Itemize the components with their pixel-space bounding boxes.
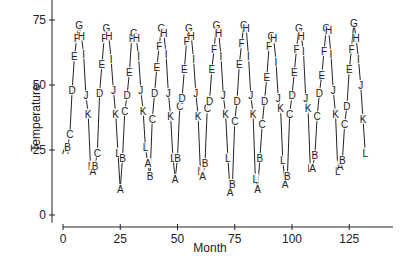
- x-tick-label: 25: [114, 232, 128, 246]
- data-point-symbol: J: [358, 80, 363, 91]
- data-point-symbol: A: [199, 171, 206, 182]
- y-tick-label: 0: [39, 208, 46, 222]
- data-point-symbol: B: [64, 142, 71, 153]
- data-point-symbol: B: [147, 171, 154, 182]
- data-point-symbol: D: [206, 96, 213, 107]
- data-point-symbol: E: [99, 59, 106, 70]
- data-point-symbol: D: [69, 85, 76, 96]
- data-point-symbol: C: [149, 114, 156, 125]
- data-point-symbol: F: [294, 44, 300, 55]
- data-point-symbol: I: [302, 46, 305, 57]
- data-point-symbol: K: [222, 109, 229, 120]
- data-point-symbol: D: [178, 93, 185, 104]
- data-point-symbol: C: [314, 111, 321, 122]
- data-point-symbol: C: [94, 148, 101, 159]
- data-point-symbol: C: [66, 129, 73, 140]
- data-point-symbol: A: [309, 163, 316, 174]
- x-tick-label: 100: [282, 232, 302, 246]
- data-point-symbol: H: [133, 33, 140, 44]
- data-point-symbol: B: [229, 179, 236, 190]
- x-tick-label: 50: [171, 232, 185, 246]
- data-point-symbol: J: [138, 85, 143, 96]
- data-point-symbol: F: [156, 41, 162, 52]
- data-point-symbol: E: [154, 62, 161, 73]
- data-point-symbol: I: [165, 49, 168, 60]
- data-point-symbol: F: [321, 46, 327, 57]
- data-point-symbol: B: [202, 158, 209, 169]
- data-point-symbol: D: [233, 96, 240, 107]
- data-point-symbol: K: [195, 111, 202, 122]
- data-point-symbol: A: [144, 158, 151, 169]
- data-point-symbol: D: [96, 88, 103, 99]
- data-point-symbol: J: [111, 85, 116, 96]
- data-point-symbol: L: [225, 153, 231, 164]
- data-point-symbol: C: [341, 119, 348, 130]
- data-point-symbol: B: [257, 153, 264, 164]
- data-point-symbol: I: [82, 49, 85, 60]
- data-point-symbol: I: [192, 54, 195, 65]
- data-point-symbol: L: [143, 142, 149, 153]
- data-point-symbol: E: [181, 64, 188, 75]
- data-point-symbol: D: [151, 88, 158, 99]
- data-point-symbol: H: [215, 28, 222, 39]
- x-tick-label: 125: [339, 232, 359, 246]
- data-point-symbol: D: [316, 88, 323, 99]
- data-point-symbol: K: [167, 111, 174, 122]
- data-point-symbol: E: [263, 72, 270, 83]
- data-point-symbol: E: [318, 70, 325, 81]
- data-point-symbol: B: [312, 150, 319, 161]
- data-point-symbol: H: [298, 31, 305, 42]
- data-point-symbol: H: [270, 33, 277, 44]
- data-point-symbol: J: [193, 88, 198, 99]
- y-axis-title: Temperature: [29, 84, 43, 152]
- temperature-line-chart: 0255075 0255075100125 ABCDEFGHIJKLABCDEF…: [0, 0, 405, 270]
- data-point-symbol: C: [121, 106, 128, 117]
- x-tick-label: 75: [228, 232, 242, 246]
- data-point-symbol: B: [339, 155, 346, 166]
- data-point-symbol: D: [124, 90, 131, 101]
- data-point-symbol: A: [254, 184, 261, 195]
- data-point-symbol: C: [259, 119, 266, 130]
- data-point-symbol: I: [110, 54, 113, 65]
- data-point-symbol: I: [330, 49, 333, 60]
- data-point-symbol: D: [288, 90, 295, 101]
- y-tick-label: 75: [33, 13, 47, 27]
- x-axis-title: Month: [193, 241, 226, 255]
- data-point-symbol: K: [360, 114, 367, 125]
- data-point-symbol: J: [221, 90, 226, 101]
- data-point-symbol: D: [343, 101, 350, 112]
- data-point-symbol: D: [261, 96, 268, 107]
- data-point-symbol: L: [253, 174, 259, 185]
- data-point-symbol: H: [353, 33, 360, 44]
- data-point-symbol: G: [75, 20, 83, 31]
- data-point-symbol: H: [188, 31, 195, 42]
- data-point-symbol: L: [280, 155, 286, 166]
- data-point-symbol: I: [357, 54, 360, 65]
- data-point-symbol: E: [291, 67, 298, 78]
- data-point-symbol: K: [85, 109, 92, 120]
- data-point-symbol: F: [211, 44, 217, 55]
- data-point-symbol: G: [350, 18, 358, 29]
- data-point-symbol: B: [174, 153, 181, 164]
- data-point-symbol: B: [119, 153, 126, 164]
- data-point-symbol: J: [248, 90, 253, 101]
- data-point-symbol: K: [250, 109, 257, 120]
- data-point-symbol: E: [209, 64, 216, 75]
- data-point-symbol: K: [277, 103, 284, 114]
- data-point-symbol: F: [348, 44, 354, 55]
- data-point-symbol: K: [140, 106, 147, 117]
- data-point-symbol: I: [137, 51, 140, 62]
- data-point-symbol: K: [112, 109, 119, 120]
- data-point-symbol: I: [247, 51, 250, 62]
- data-point-symbol: J: [303, 93, 308, 104]
- data-point-symbol: J: [331, 85, 336, 96]
- data-point-symbol: I: [220, 51, 223, 62]
- data-point-symbol: H: [243, 23, 250, 34]
- data-point-symbol: C: [286, 109, 293, 120]
- data-point-symbol: J: [83, 90, 88, 101]
- data-point-symbol: E: [126, 67, 133, 78]
- data-point-symbol: H: [160, 28, 167, 39]
- data-point-symbol: F: [239, 38, 245, 49]
- data-point-symbol: H: [325, 25, 332, 36]
- data-point-symbol: B: [284, 171, 291, 182]
